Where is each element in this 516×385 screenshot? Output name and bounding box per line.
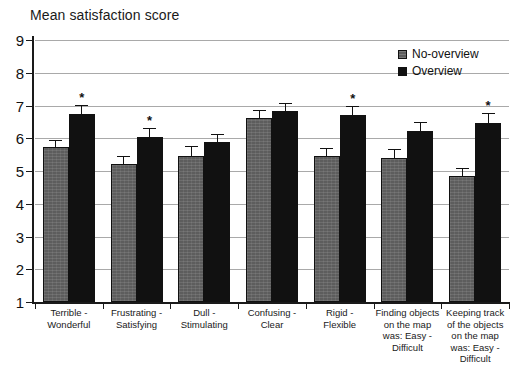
error-bar-stem [259,110,260,118]
bar-no-overview [381,158,407,302]
y-axis-tick-label: 3 [0,228,24,245]
error-bar-stem [352,106,353,115]
error-bar [314,148,340,156]
error-bar-cap [346,106,359,107]
x-axis-label: Dull -Stimulating [170,307,238,330]
x-axis-label-line: Rigid - [306,307,374,319]
y-axis-line [32,36,34,304]
bar-no-overview [178,156,204,302]
error-bar-cap [143,128,156,129]
bar-overview [407,131,433,302]
bar-no-overview [246,118,272,302]
error-bar [407,122,433,131]
x-axis-label-line: Frustrating - [103,307,171,319]
x-axis-label: Terrible -Wonderful [35,307,103,330]
error-bar-stem [285,103,286,111]
error-bar [137,128,163,137]
bar-no-overview [314,156,340,302]
error-bar-stem [149,128,150,137]
error-bar [449,168,475,176]
legend-label-overview: Overview [412,64,462,78]
y-axis-tick-label: 1 [0,294,24,311]
bar-overview [272,111,298,302]
error-bar-stem [488,113,489,123]
error-bar-cap [117,156,130,157]
x-axis-label-line: on the map [374,319,442,331]
x-axis-label-line: Flexible [306,319,374,331]
error-bar [475,113,501,123]
significance-asterisk: * [350,95,355,103]
error-bar [111,156,137,164]
error-bar [178,146,204,156]
y-axis-tick-label: 5 [0,163,24,180]
bar-overview [137,137,163,302]
error-bar [43,140,69,147]
x-axis-label-line: Confusing - [238,307,306,319]
x-axis-label-line: Dull - [170,307,238,319]
significance-asterisk: * [486,102,491,110]
chart-legend: No-overview Overview [398,46,513,80]
x-axis-label-line: Difficult [441,353,509,365]
y-axis-tick-label: 6 [0,130,24,147]
y-axis-tick-label: 9 [0,32,24,49]
error-bar [272,103,298,111]
x-axis-label-line: Terrible - [35,307,103,319]
x-axis-label: Rigid -Flexible [306,307,374,330]
error-bar-cap [414,122,427,123]
x-axis-label-line: Difficult [374,342,442,354]
error-bar [69,105,95,114]
error-bar-cap [49,140,62,141]
error-bar-cap [279,103,292,104]
x-axis-category-labels: Terrible -WonderfulFrustrating -Satisfyi… [35,307,509,385]
x-axis-label-line: was: Easy - [374,330,442,342]
error-bar-cap [320,148,333,149]
bar-overview [204,142,230,302]
x-axis-label: Confusing -Clear [238,307,306,330]
significance-asterisk: * [147,117,152,125]
error-bar-stem [55,140,56,147]
error-bar-cap [75,105,88,106]
error-bar-stem [191,146,192,156]
x-axis-label-line: of the objects [441,319,509,331]
legend-swatch-overview [398,67,407,76]
error-bar-stem [81,105,82,114]
error-bar-stem [420,122,421,131]
error-bar-cap [185,146,198,147]
error-bar-cap [482,113,495,114]
bar-no-overview [111,164,137,302]
x-axis-label-line: Keeping track [441,307,509,319]
x-axis-label-line: Wonderful [35,319,103,331]
x-axis-label-line: Satisfying [103,319,171,331]
legend-label-no-overview: No-overview [412,47,479,61]
y-axis-tick-label: 8 [0,64,24,81]
legend-item-no-overview: No-overview [398,46,513,62]
error-bar-stem [326,148,327,156]
legend-item-overview: Overview [398,63,513,79]
error-bar [381,149,407,158]
x-axis-label-line: Stimulating [170,319,238,331]
y-axis-tick-label: 4 [0,195,24,212]
x-axis-line [33,302,509,304]
y-axis-labels: 123456789 [0,0,24,385]
error-bar-stem [217,134,218,142]
x-axis-label-line: was: Easy - [441,342,509,354]
x-axis-tick [509,302,510,309]
significance-asterisk: * [79,94,84,102]
error-bar [246,110,272,118]
error-bar-stem [123,156,124,164]
y-axis-tick-label: 7 [0,97,24,114]
error-bar [204,134,230,142]
bar-no-overview [43,147,69,302]
legend-swatch-no-overview [398,50,407,59]
error-bar-stem [462,168,463,176]
error-bar-cap [388,149,401,150]
x-axis-label: Keeping trackof the objectson the mapwas… [441,307,509,365]
x-axis-label-line: Finding objects [374,307,442,319]
x-axis-label-line: on the map [441,330,509,342]
bar-overview [340,115,366,302]
error-bar-cap [253,110,266,111]
bar-overview [475,123,501,302]
error-bar-cap [456,168,469,169]
error-bar-stem [394,149,395,158]
bar-no-overview [449,176,475,302]
